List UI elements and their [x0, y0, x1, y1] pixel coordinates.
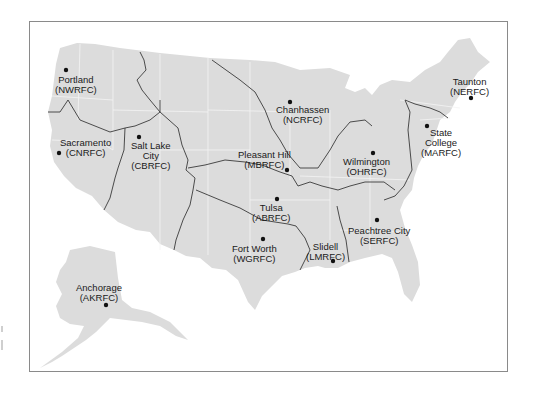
label-serfc: Peachtree City(SERFC) — [348, 226, 410, 246]
label-nerfc: Taunton(NERFC) — [450, 77, 489, 97]
label-abrfc: Tulsa(ABRFC) — [252, 203, 291, 223]
label-akrfc: Anchorage(AKRFC) — [76, 283, 122, 303]
edge-artifact — [1, 326, 3, 332]
label-ncrfc: Chanhassen(NCRFC) — [276, 105, 329, 125]
marker-peachtree-city — [375, 218, 379, 222]
label-marfc: StateCollege(MARFC) — [421, 128, 461, 158]
marker-tulsa — [275, 197, 279, 201]
edge-artifact — [1, 340, 3, 350]
label-mbrfc: Pleasant Hill(MBRFC) — [238, 150, 291, 170]
label-cbrfc: Salt LakeCity(CBRFC) — [131, 141, 171, 171]
marker-salt-lake-city — [137, 135, 141, 139]
marker-anchorage — [104, 303, 108, 307]
alaska-landmass — [40, 246, 188, 368]
label-ohrfc: Wilmington(OHRFC) — [343, 157, 390, 177]
label-lmrfc: Slidell(LMRFC) — [306, 242, 345, 262]
label-nwrfc: Portland(NWRFC) — [55, 75, 97, 95]
marker-fort-worth — [261, 237, 265, 241]
marker-portland — [64, 68, 68, 72]
us-rfc-map — [0, 0, 533, 395]
label-cnrfc: Sacramento(CNRFC) — [60, 138, 111, 158]
marker-wilmington — [371, 151, 375, 155]
label-wgrfc: Fort Worth(WGRFC) — [232, 244, 277, 264]
